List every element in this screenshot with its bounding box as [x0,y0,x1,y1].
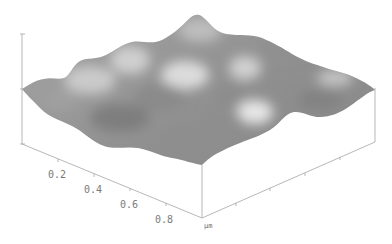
tick-label-0.6: 0.6 [120,199,138,210]
tick-label-0.8: 0.8 [155,214,173,225]
surface [0,0,392,244]
surface-plot: 0.2 0.4 0.6 0.8 μm [0,0,392,244]
tick-label-0.4: 0.4 [84,184,102,195]
x-axis-tick-labels: 0.2 0.4 0.6 0.8 μm [48,169,212,230]
unit-label: μm [204,222,212,230]
tick-label-0.2: 0.2 [48,169,66,180]
